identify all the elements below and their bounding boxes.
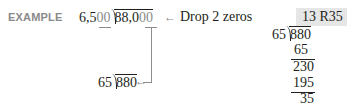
division-bracket: 880 (115, 74, 137, 91)
answer-highlight: 13 R35 (296, 8, 347, 26)
divisor-dropped-zeros: 00 (97, 10, 111, 25)
step-subtract-2: 195 (293, 75, 314, 91)
divisor-zeros-underline (99, 27, 111, 28)
left-arrow-icon: ← (164, 10, 176, 25)
final-remainder: 35 (300, 91, 314, 107)
step-subtract-1: 65 (294, 42, 308, 58)
reduced-divisor: 65 (98, 75, 112, 90)
drop-zeros-note: Drop 2 zeros (180, 9, 252, 25)
example-label: EXAMPLE (8, 11, 63, 23)
long-division-setup: 65880 (272, 26, 311, 43)
ld-dividend: 880 (290, 27, 311, 42)
step-remainder-1: 230 (293, 59, 314, 75)
dividend-dropped-zeros: 00 (139, 10, 153, 25)
division-bracket: 880 (289, 26, 311, 43)
dividend-prefix: 88,0 (115, 10, 140, 25)
ld-divisor: 65 (272, 27, 286, 42)
divisor-prefix: 6,5 (79, 10, 97, 25)
connector-vertical-line (151, 27, 152, 82)
original-divisor: 6,500 (79, 10, 111, 25)
reduced-division: 65880 (98, 74, 137, 91)
division-bracket: 88,000 (114, 9, 154, 26)
original-division: 6,50088,000 (79, 9, 153, 26)
reduced-dividend: 880 (116, 75, 137, 90)
